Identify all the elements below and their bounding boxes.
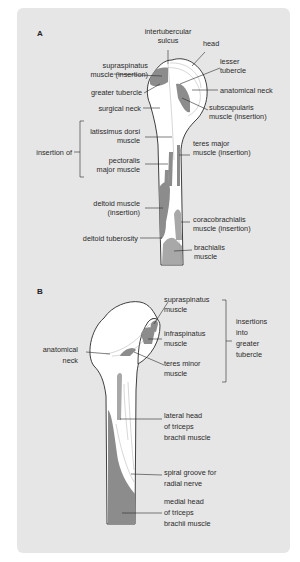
label-lesser-tubercle: lessertubercle	[220, 57, 246, 75]
humerus-diagram: A inter	[0, 0, 300, 562]
label-latissimus-dorsi: latissimus dorsimuscle	[90, 127, 140, 145]
panel-a: A inter	[36, 27, 273, 265]
label-deltoid-tuberosity: deltoid tuberosity	[83, 234, 139, 243]
label-coracobrachialis-insertion: coracobrachialismuscle (insertion)	[193, 215, 251, 233]
label-supraspinatus-insertion: supraspinatusmuscle (insertion)	[90, 61, 148, 79]
label-teres-minor: teres minormuscle	[164, 359, 201, 378]
label-medial-head-triceps: medial headof tricepsbrachii muscle	[164, 497, 211, 528]
label-intertubercular-sulcus: intertubercularsulcus	[145, 27, 192, 45]
teres-major-region	[177, 145, 180, 186]
label-deltoid-insertion: deltoid muscle(insertion)	[93, 199, 140, 217]
insertions-bracket	[222, 300, 226, 382]
label-pectoralis-major: pectoralismajor muscle	[97, 156, 141, 174]
label-teres-major-insertion: teres majormuscle (insertion)	[193, 139, 251, 157]
label-anatomical-neck-a: anatomical neck	[220, 86, 273, 95]
label-anatomical-neck-b: anatomicalneck	[43, 345, 79, 365]
label-surgical-neck: surgical neck	[98, 104, 141, 113]
label-greater-tubercle: greater tubercle	[91, 88, 142, 97]
label-subscapularis-insertion: subscapularismuscle (insertion)	[209, 103, 267, 121]
panel-a-label: A	[37, 29, 43, 38]
label-brachialis: brachialismuscle	[194, 243, 225, 261]
panel-b: B supraspinatusmuscle infraspinatusmuscl…	[37, 287, 268, 528]
label-head: head	[203, 39, 219, 48]
label-insertions-into-greater-tubercle: insertionsintogreatertubercle	[236, 317, 268, 359]
label-spiral-groove: spiral groove forradial nerve	[164, 468, 217, 488]
label-insertion-of: insertion of	[36, 148, 73, 157]
label-lateral-head-triceps: lateral headof tricepsbrachii muscle	[164, 411, 211, 442]
label-infraspinatus: infraspinatusmuscle	[164, 329, 206, 348]
supraspinatus-insertion-region	[150, 68, 168, 87]
panel-b-label: B	[37, 287, 43, 296]
label-supraspinatus-b: supraspinatusmuscle	[164, 295, 210, 314]
insertion-of-bracket	[80, 121, 84, 177]
